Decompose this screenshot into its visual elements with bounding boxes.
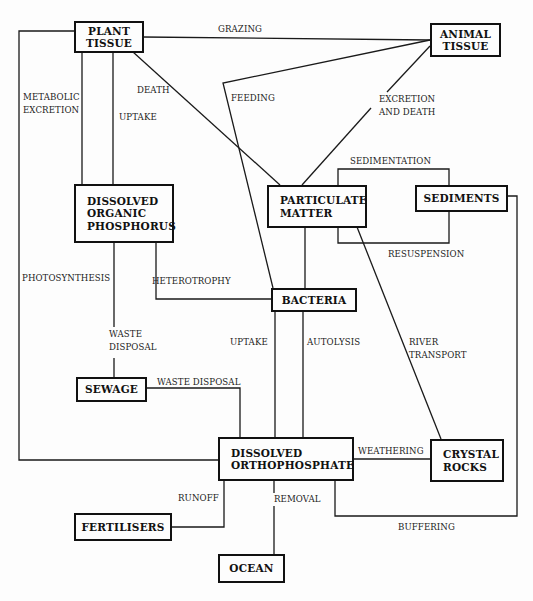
label-text: GRAZING: [218, 23, 262, 36]
node-label: BACTERIA: [282, 294, 347, 307]
label-text: RIVER: [409, 336, 467, 349]
node-label: SEWAGE: [85, 383, 138, 396]
node-label: TISSUE: [442, 40, 488, 53]
label-text: SEDIMENTATION: [350, 155, 431, 168]
node-crystal-rocks: CRYSTAL ROCKS: [430, 439, 504, 482]
node-label: ORGANIC: [87, 207, 146, 220]
edge-sedimentation: [338, 169, 449, 185]
label-river-transport: RIVER TRANSPORT: [409, 336, 467, 362]
edge-waste-disposal: [146, 388, 240, 437]
node-ocean: OCEAN: [218, 554, 285, 583]
phosphorus-cycle-diagram: PLANT TISSUE ANIMAL TISSUE DISSOLVED ORG…: [0, 0, 533, 601]
node-label: OCEAN: [229, 562, 273, 575]
label-text: AUTOLYSIS: [307, 336, 360, 349]
node-label: ANIMAL: [440, 28, 491, 41]
label-text: UPTAKE: [230, 336, 268, 349]
edge-excretion-death-a: [387, 46, 430, 92]
label-text: REMOVAL: [274, 493, 321, 506]
node-label: PHOSPHORUS: [87, 220, 176, 233]
edge-excretion-death-b: [302, 108, 371, 185]
label-metabolic-excretion: METABOLIC EXCRETION: [23, 91, 80, 117]
node-label: FERTILISERS: [81, 521, 164, 534]
label-buffering: BUFFERING: [398, 521, 455, 534]
label-heterotrophy: HETEROTROPHY: [152, 275, 231, 288]
node-label: ORTHOPHOSPHATE: [231, 459, 354, 472]
label-grazing: GRAZING: [218, 23, 262, 36]
label-text: DISPOSAL: [109, 341, 157, 354]
node-label: CRYSTAL: [443, 448, 499, 461]
edge-heterotrophy: [156, 242, 271, 299]
label-resuspension: RESUSPENSION: [388, 248, 464, 261]
label-photosynthesis: PHOTOSYNTHESIS: [22, 272, 110, 285]
connector-lines: [0, 0, 533, 601]
label-text: WASTE DISPOSAL: [157, 376, 240, 389]
edge-grazing: [143, 37, 430, 40]
label-removal: REMOVAL: [272, 493, 321, 506]
label-text: WASTE: [109, 328, 157, 341]
label-text: RESUSPENSION: [388, 248, 464, 261]
label-text: METABOLIC: [23, 91, 80, 104]
label-feeding: FEEDING: [231, 92, 275, 105]
node-particulate-matter: PARTICULATE MATTER: [267, 185, 367, 228]
label-text: DEATH: [137, 84, 170, 97]
label-text: RUNOFF: [178, 492, 219, 505]
label-waste-disposal-vertical: WASTE DISPOSAL: [109, 328, 157, 354]
label-text: EXCRETION: [379, 93, 435, 106]
label-autolysis: AUTOLYSIS: [307, 336, 360, 349]
node-dissolved-organic-phosphorus: DISSOLVED ORGANIC PHOSPHORUS: [74, 184, 174, 243]
node-label: DISSOLVED: [87, 195, 158, 208]
label-text: WEATHERING: [358, 445, 424, 458]
label-runoff: RUNOFF: [178, 492, 219, 505]
label-text: PHOTOSYNTHESIS: [22, 272, 110, 285]
label-death: DEATH: [137, 84, 170, 97]
label-excretion-and-death: EXCRETION AND DEATH: [379, 93, 435, 119]
label-text: EXCRETION: [23, 104, 80, 117]
label-text: BUFFERING: [398, 521, 455, 534]
node-plant-tissue: PLANT TISSUE: [74, 21, 144, 53]
node-fertilisers: FERTILISERS: [74, 513, 172, 541]
label-text: HETEROTROPHY: [152, 275, 231, 288]
node-label: PLANT: [88, 25, 130, 38]
label-text: AND DEATH: [379, 106, 435, 119]
label-text: FEEDING: [231, 92, 275, 105]
node-label: MATTER: [280, 207, 332, 220]
node-dissolved-orthophosphate: DISSOLVED ORTHOPHOSPHATE: [218, 437, 354, 481]
node-bacteria: BACTERIA: [271, 288, 357, 312]
node-label: ROCKS: [443, 461, 487, 474]
label-uptake-plant: UPTAKE: [119, 111, 157, 124]
node-label: TISSUE: [86, 37, 132, 50]
label-sedimentation: SEDIMENTATION: [350, 155, 431, 168]
node-label: SEDIMENTS: [423, 192, 499, 205]
label-waste-disposal-horizontal: WASTE DISPOSAL: [157, 376, 240, 389]
node-sediments: SEDIMENTS: [415, 185, 508, 212]
node-sewage: SEWAGE: [76, 377, 147, 402]
node-label: DISSOLVED: [231, 447, 302, 460]
label-weathering: WEATHERING: [358, 445, 424, 458]
node-label: PARTICULATE: [280, 194, 367, 207]
label-uptake-bacteria: UPTAKE: [230, 336, 268, 349]
node-animal-tissue: ANIMAL TISSUE: [430, 23, 501, 57]
label-text: UPTAKE: [119, 111, 157, 124]
label-text: TRANSPORT: [409, 349, 467, 362]
